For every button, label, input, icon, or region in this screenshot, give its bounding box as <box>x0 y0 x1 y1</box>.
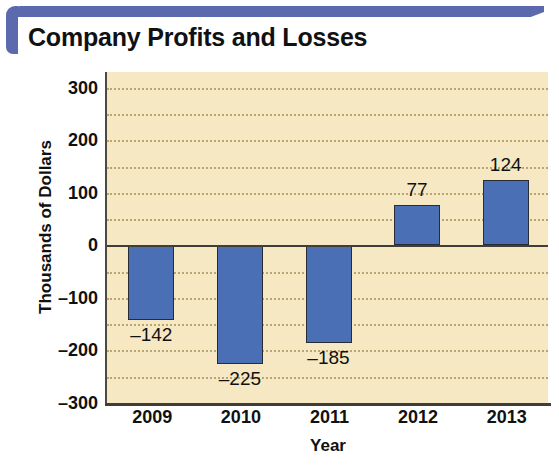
y-tick-label: 200 <box>36 130 98 151</box>
x-axis-title: Year <box>105 436 551 456</box>
x-tick-label-2011: 2011 <box>280 407 380 428</box>
bar-value-label-2010: –225 <box>190 368 290 390</box>
bar-value-label-2013: 124 <box>456 154 556 176</box>
y-tick-label: –300 <box>36 393 98 414</box>
y-tick-label: –100 <box>36 287 98 308</box>
bar-2011[interactable] <box>306 245 352 342</box>
bar-2009[interactable] <box>128 245 174 320</box>
x-tick-label-2012: 2012 <box>368 407 468 428</box>
title-accent-bracket-top <box>14 6 544 17</box>
x-tick-label-2010: 2010 <box>191 407 291 428</box>
x-tick-label-2009: 2009 <box>102 407 202 428</box>
bar-2013[interactable] <box>483 180 529 245</box>
x-axis-line <box>105 403 551 406</box>
zero-baseline <box>107 245 548 247</box>
y-tick-label: –200 <box>36 340 98 361</box>
y-tick-label: 100 <box>36 182 98 203</box>
bar-value-label-2009: –142 <box>101 324 201 346</box>
x-tick-label-2013: 2013 <box>457 407 557 428</box>
bar-chart: Thousands of Dollars 3002001000–100–200–… <box>0 62 559 466</box>
bar-2010[interactable] <box>217 245 263 363</box>
bar-value-label-2011: –185 <box>279 347 379 369</box>
title-banner: Company Profits and Losses <box>0 0 559 62</box>
bar-2012[interactable] <box>394 205 440 245</box>
y-tick-label: 300 <box>36 77 98 98</box>
page-title: Company Profits and Losses <box>28 18 528 56</box>
plot-area: –142–225–18577124 <box>105 72 548 403</box>
x-axis-tick-labels: 20092010201120122013 <box>105 407 551 435</box>
bar-value-label-2012: 77 <box>367 179 467 201</box>
y-axis-tick-labels: 3002001000–100–200–300 <box>36 72 98 403</box>
bars-layer: –142–225–18577124 <box>107 72 548 403</box>
y-tick-label: 0 <box>36 235 98 256</box>
